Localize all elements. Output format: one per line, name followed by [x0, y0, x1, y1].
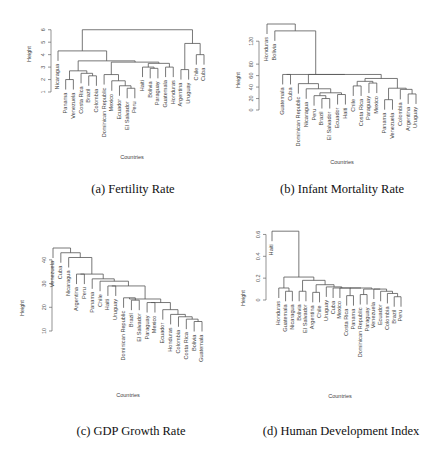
leaf-label: Venezuela	[70, 92, 76, 119]
leaf-label: Panama	[350, 308, 356, 330]
leaf-label: Cuba	[57, 265, 63, 279]
leaf-label: Chile	[350, 99, 356, 112]
dendrogram-fertility-rate: 123456PanamaVenezuelaBrazilColombiaCosta…	[0, 0, 218, 200]
leaf-label: Venezuela	[49, 260, 55, 287]
leaf-label: Paraguay	[364, 307, 370, 331]
leaf-label: Costa Rica	[358, 98, 364, 126]
panel-gdp-growth-rate: 10203040ArgentinaPeruHaitiUruguayBrazilE…	[0, 218, 218, 449]
leaf-label: Bolivia	[296, 303, 302, 320]
x-axis-label: Countries	[120, 154, 144, 160]
leaf-label: Uruguay	[412, 107, 418, 128]
leaf-label: Ecuador	[377, 304, 383, 325]
leaf-label: Argentina	[73, 286, 79, 311]
leaf-label: Brazil	[391, 310, 397, 324]
leaf-label: Ecuador	[116, 99, 122, 120]
leaf-label: Peru	[311, 109, 317, 121]
panel-human-development-index: 00.20.40.6GuatemalaNicaraguaHondurasBoli…	[218, 218, 436, 449]
panel-infant-mortality-rate: 020406080120GuatemalaCubaBrazilEl Salvad…	[218, 0, 436, 200]
dendrogram-human-development-index: 00.20.40.6GuatemalaNicaraguaHondurasBoli…	[218, 218, 436, 449]
x-axis-label: Countries	[116, 392, 140, 398]
y-axis-label: Height	[19, 300, 25, 316]
leaf-label: Brazil	[85, 89, 91, 103]
leaf-label: El Salvador	[136, 313, 142, 342]
leaf-label: Guatemala	[279, 87, 285, 115]
leaf-label: Argentina	[177, 82, 183, 107]
y-tick-label: 0	[248, 108, 254, 111]
leaf-label: Ecuador	[334, 107, 340, 128]
y-tick-label: 20	[41, 304, 47, 310]
leaf-label: Bolivia	[147, 80, 153, 97]
leaf-label: Colombia	[93, 88, 99, 113]
leaf-label: Guatemala	[198, 334, 204, 362]
leaf-label: Colombia	[397, 101, 403, 126]
y-tick-label: 4	[40, 53, 46, 56]
y-tick-label: 2	[40, 78, 46, 81]
leaf-label: Nicaragua	[303, 101, 309, 127]
x-axis-label: Countries	[328, 393, 352, 399]
dendrogram-infant-mortality-rate: 020406080120GuatemalaCubaBrazilEl Salvad…	[218, 0, 436, 200]
figure-caption: (b) Infant Mortality Rate	[280, 182, 404, 197]
leaf-label: Chile	[193, 68, 199, 81]
y-tick-label: 20	[248, 95, 254, 101]
leaf-label: Mexico	[373, 96, 379, 114]
leaf-label: Haiti	[342, 108, 348, 119]
y-tick-label: 40	[248, 84, 254, 90]
leaf-label: Venezuela	[370, 301, 376, 328]
leaf-label: Paraguay	[365, 96, 371, 120]
y-tick-label: 80	[248, 61, 254, 67]
leaf-label: Chile	[316, 305, 322, 318]
leaf-label: Brazil	[318, 112, 324, 126]
dendrogram-gdp-growth-rate: 10203040ArgentinaPeruHaitiUruguayBrazilE…	[0, 218, 218, 449]
leaf-label: Uruguay	[323, 300, 329, 321]
leaf-label: Haiti	[104, 299, 110, 310]
leaf-label: Ecuador	[159, 323, 165, 344]
leaf-label: Dominican Republic	[357, 307, 363, 357]
leaf-label: Dominican Republic	[295, 96, 301, 146]
leaf-label: El Salvador	[124, 101, 130, 130]
leaf-label: Venezuela	[389, 112, 395, 139]
leaf-label: Cuba	[287, 87, 293, 101]
leaf-label: Dominican Republic	[120, 311, 126, 361]
y-tick-label: 40	[41, 257, 47, 263]
leaf-label: Panama	[89, 291, 95, 313]
leaf-label: Guatemala	[162, 79, 168, 107]
y-tick-label: 0.4	[255, 252, 261, 260]
leaf-label: Mexico	[151, 316, 157, 334]
leaf-label: Paraguay	[154, 81, 160, 105]
x-axis-label: Countries	[330, 159, 354, 165]
y-tick-label: 6	[40, 28, 46, 31]
leaf-label: Cuba	[200, 67, 206, 81]
leaf-label: Peru	[397, 310, 403, 322]
leaf-label: El Salvador	[326, 111, 332, 140]
leaf-label: Paraguay	[144, 315, 150, 339]
leaf-label: Brazil	[128, 313, 134, 327]
y-tick-label: 1	[40, 90, 46, 93]
leaf-label: Costa Rica	[343, 308, 349, 336]
leaf-label: Peru	[131, 101, 137, 113]
leaf-label: Colombia	[175, 329, 181, 354]
panel-fertility-rate: 123456PanamaVenezuelaBrazilColombiaCosta…	[0, 0, 218, 200]
leaf-label: Nicaragua	[65, 270, 71, 296]
figure-caption: (d) Human Development Index	[263, 424, 420, 439]
y-tick-label: 0	[255, 298, 261, 301]
y-axis: 020406080120	[248, 37, 259, 112]
y-tick-label: 5	[40, 41, 46, 44]
leaf-label: Argentina	[309, 304, 315, 329]
leaf-label: Colombia	[384, 306, 390, 331]
y-axis-label: Height	[235, 72, 241, 88]
leaf-label: Bolivia	[271, 43, 277, 60]
leaf-label: Bolivia	[191, 334, 197, 351]
leaf-label: Dominican Republic	[101, 87, 107, 137]
leaf-label: Honduras	[263, 37, 269, 61]
leaf-label: Cuba	[330, 300, 336, 314]
leaf-label: Honduras	[170, 80, 176, 104]
y-tick-label: 120	[248, 37, 254, 46]
y-tick-label: 10	[41, 328, 47, 334]
leaf-label: Uruguay	[185, 82, 191, 103]
leaf-label: Nicaragua	[54, 63, 60, 89]
y-axis: 123456	[40, 28, 51, 93]
leaf-label: El Salvador	[302, 304, 308, 333]
leaf-label: Guatemala	[282, 303, 288, 331]
leaf-label: Costa Rica	[78, 85, 84, 113]
figure-caption: (c) GDP Growth Rate	[77, 424, 186, 439]
